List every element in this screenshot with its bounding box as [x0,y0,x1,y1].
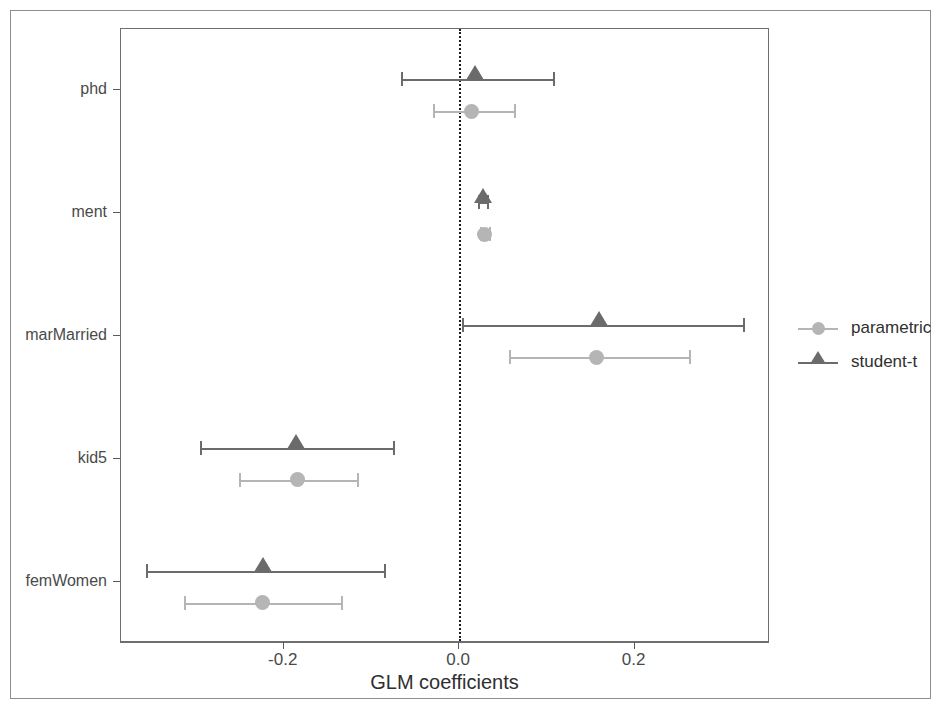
x-tick-label: 0.2 [622,650,646,670]
legend-item-parametric[interactable]: parametric [795,312,935,346]
errorbar-cap-lower [239,473,241,487]
y-tick-femWomen [113,581,120,582]
zero-reference-line [459,29,461,641]
triangle-marker-icon [810,351,826,364]
x-tick-2 [634,642,635,649]
x-tick-label: -0.2 [268,650,297,670]
chart-legend: parametricstudent-t [795,312,935,380]
y-tick-label-kid5: kid5 [0,449,107,467]
datapoint-student-t-marMarried [590,311,608,326]
errorbar-cap-lower [462,318,464,332]
errorbar-cap-lower [509,350,511,364]
errorbar-cap-lower [184,596,186,610]
y-tick-marMarried [113,335,120,336]
y-tick-label-ment: ment [0,203,107,221]
y-tick-label-phd: phd [0,80,107,98]
errorbar-cap-lower [433,104,435,118]
errorbar-cap-upper [553,72,555,86]
errorbar-cap-upper [357,473,359,487]
errorbar-cap-lower [401,72,403,86]
datapoint-student-t-femWomen [254,557,272,572]
datapoint-student-t-ment [474,188,492,203]
figure-canvas: -0.20.00.2 phdmentmarMarriedkid5femWomen… [0,0,943,713]
y-tick-label-marMarried: marMarried [0,326,107,344]
legend-label: parametric [851,318,931,338]
legend-label: student-t [851,352,917,372]
datapoint-parametric-phd [464,104,479,119]
plot-panel [120,28,769,642]
x-tick-1 [458,642,459,649]
x-axis-line [120,642,769,643]
y-tick-kid5 [113,458,120,459]
y-tick-ment [113,212,120,213]
legend-key [795,312,841,346]
errorbar-cap-lower [146,564,148,578]
circle-marker-icon [812,322,825,335]
datapoint-parametric-kid5 [290,472,305,487]
plot-area [121,29,768,641]
datapoint-student-t-kid5 [287,434,305,449]
errorbar-cap-upper [341,596,343,610]
errorbar-cap-upper [743,318,745,332]
errorbar-cap-upper [689,350,691,364]
x-axis-title: GLM coefficients [120,671,769,694]
errorbar-cap-lower [200,441,202,455]
x-tick-label: 0.0 [446,650,470,670]
datapoint-parametric-marMarried [589,350,604,365]
x-tick-0 [283,642,284,649]
legend-key [795,346,841,380]
errorbar-cap-upper [514,104,516,118]
errorbar-cap-upper [384,564,386,578]
y-tick-phd [113,89,120,90]
legend-item-student-t[interactable]: student-t [795,346,935,380]
datapoint-parametric-ment [477,227,492,242]
datapoint-parametric-femWomen [255,595,270,610]
datapoint-student-t-phd [466,65,484,80]
errorbar-cap-upper [393,441,395,455]
y-tick-label-femWomen: femWomen [0,572,107,590]
